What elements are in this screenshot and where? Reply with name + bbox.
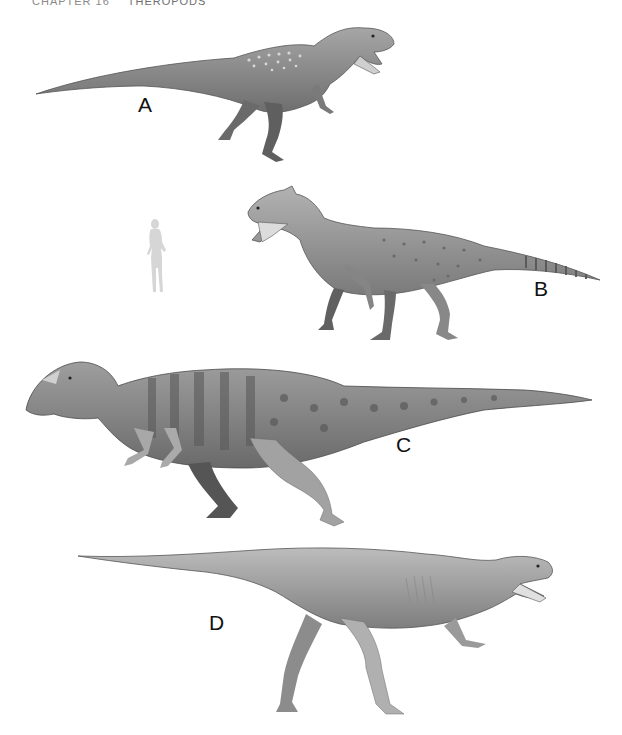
figure-label-d: D — [209, 612, 224, 633]
figure-label-c: C — [396, 434, 411, 455]
theropod-a-icon — [34, 22, 396, 164]
theropod-b-figure — [244, 184, 602, 342]
running-head: CHAPTER 16 THEROPODS — [32, 0, 206, 7]
human-silhouette-icon — [140, 218, 172, 294]
chapter-label: CHAPTER 16 — [32, 0, 110, 7]
figure-label-a: A — [138, 94, 152, 115]
theropod-d-figure — [76, 544, 562, 724]
figure-label-b: B — [534, 278, 548, 299]
theropod-c-icon — [24, 358, 594, 530]
section-label: THEROPODS — [128, 0, 207, 7]
theropod-d-icon — [76, 544, 562, 724]
theropod-c-figure — [24, 358, 594, 530]
human-scale-figure — [140, 218, 172, 294]
theropod-b-icon — [244, 184, 602, 342]
theropod-a-figure — [34, 22, 396, 164]
